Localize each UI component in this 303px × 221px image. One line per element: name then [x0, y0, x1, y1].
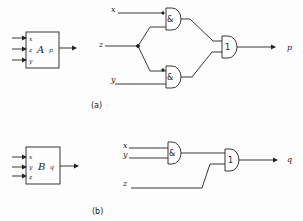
block-a-input-x: x — [29, 35, 33, 42]
block-b-input-y: y — [28, 163, 33, 171]
figure-a-labels: x z y A p x z y & & 1 p (a) — [28, 5, 292, 110]
block-b-name: B — [37, 161, 45, 172]
input-x-label-b: x — [123, 141, 128, 150]
block-b-input-x: x — [29, 153, 33, 160]
output-p-label: p — [287, 43, 292, 52]
or-gate-b-label: 1 — [228, 156, 233, 165]
and-gate-top-label: & — [167, 15, 173, 24]
output-q-label: q — [287, 155, 292, 164]
block-a-input-y: y — [28, 57, 33, 65]
logic-circuit-figure: x z y A p x z y & & 1 p (a) x y z B q x … — [0, 0, 303, 221]
caption-b: (b) — [92, 207, 103, 216]
block-b-output: q — [50, 163, 54, 171]
figure-b-labels: x y z B q x y z & 1 q (b) — [28, 141, 292, 216]
input-z-label-b: z — [122, 179, 128, 188]
or-gate-label: 1 — [225, 43, 230, 52]
input-x-label: x — [111, 5, 116, 14]
and-gate-b-label: & — [169, 149, 175, 158]
caption-a: (a) — [91, 101, 102, 110]
input-z-label: z — [98, 40, 104, 49]
block-b-input-z: z — [28, 173, 33, 180]
circuit-diagrams: x z y A p x z y & & 1 p (a) x y z B q x … — [0, 0, 303, 221]
input-y-label-b: y — [122, 150, 128, 159]
block-a-output: p — [49, 46, 53, 54]
and-gate-bottom-label: & — [167, 73, 173, 82]
block-a-name: A — [36, 44, 44, 55]
block-a-input-z: z — [28, 46, 33, 53]
input-y-label: y — [110, 75, 116, 84]
